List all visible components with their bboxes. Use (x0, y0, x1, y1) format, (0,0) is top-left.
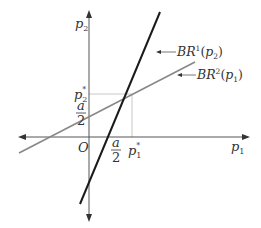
br1-curve (80, 12, 160, 204)
y-axis-down-arrow-icon (86, 214, 92, 222)
x-axis-right-arrow-icon (242, 134, 250, 140)
y-intercept-label: a 2 (76, 98, 86, 128)
x-axis-label: p1 (231, 139, 244, 156)
best-response-diagram: p2 p1 O p*2 a 2 a 2 p*1 BR1(p2) BR2(p1) (0, 0, 261, 228)
y-axis-label: p2 (75, 16, 88, 33)
br1-label: BR1(p2) (176, 44, 223, 61)
br2-leader (177, 73, 196, 77)
br2-label: BR2(p1) (196, 67, 243, 84)
origin-label: O (78, 140, 89, 155)
br1-leader (156, 50, 176, 54)
x-intercept-label: a 2 (111, 135, 121, 165)
svg-text:2: 2 (112, 150, 120, 165)
svg-text:a: a (77, 98, 85, 113)
equilibrium-x-label: p*1 (128, 141, 141, 160)
br2-leader-arrow-icon (177, 73, 182, 77)
x-axis-left-arrow-icon (18, 134, 26, 140)
br1-leader-arrow-icon (156, 50, 161, 54)
y-axis-up-arrow-icon (86, 10, 92, 18)
svg-text:a: a (112, 135, 120, 150)
svg-text:2: 2 (77, 113, 85, 128)
